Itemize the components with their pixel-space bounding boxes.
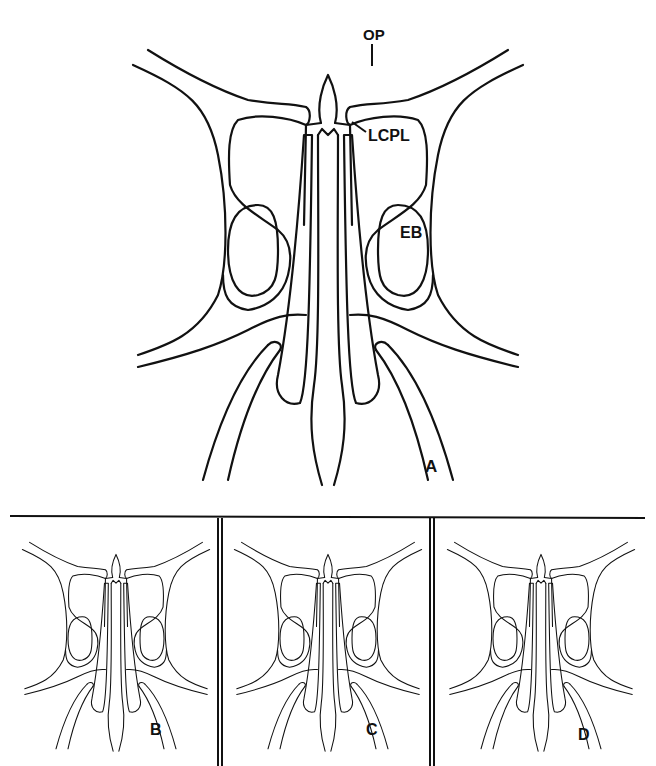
panel-letter-b: B <box>150 721 162 738</box>
panel-letter-d: D <box>578 726 590 743</box>
sinus-anatomy-diagram: OP LCPL EB A B C D <box>0 0 656 766</box>
panel-letter-c: C <box>366 721 378 738</box>
panel-letter-a: A <box>425 457 437 476</box>
label-eb: EB <box>400 224 422 241</box>
panel-d <box>447 542 634 751</box>
label-lcpl: LCPL <box>368 127 410 144</box>
lcpl-leader-line <box>352 122 366 132</box>
panel-c <box>234 542 421 751</box>
label-op: OP <box>363 26 385 43</box>
panel-b <box>22 542 209 751</box>
panel-a <box>133 50 523 485</box>
